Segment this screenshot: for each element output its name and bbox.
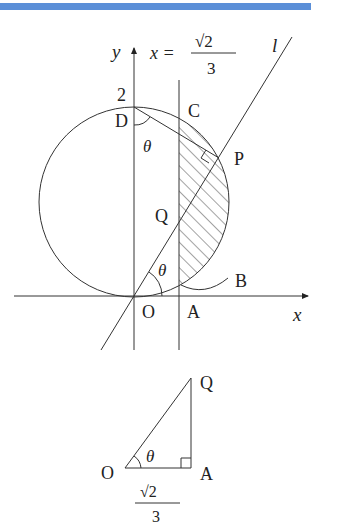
- angle-theta-O: θ: [158, 261, 166, 280]
- triangle-OAQ: [125, 378, 191, 468]
- angle-theta-D: θ: [143, 137, 151, 156]
- y-intercept-label: 2: [117, 85, 126, 105]
- point-Q-label: Q: [155, 206, 168, 226]
- point-B-label: B: [235, 271, 247, 291]
- x-axis-label: x: [292, 304, 302, 325]
- base-numerator: √2: [140, 483, 157, 500]
- equation-numerator: √2: [195, 32, 213, 51]
- point-C-label: C: [188, 101, 200, 121]
- point-P-label: P: [234, 149, 244, 169]
- shaded-region: [179, 100, 239, 300]
- point-O-label: O: [142, 302, 155, 322]
- equation-lhs: x =: [149, 43, 175, 63]
- point-D-label: D: [115, 111, 128, 131]
- y-axis-label: y: [110, 41, 121, 62]
- point-A-label: A: [187, 302, 200, 322]
- equation-denominator: 3: [207, 59, 216, 78]
- triangle-A-label: A: [200, 464, 213, 484]
- angle-arc-D: [134, 117, 150, 125]
- triangle-O-label: O: [101, 463, 114, 483]
- geometry-diagram: y x x = √2 3 l 2 D C P Q O A B θ θ O A Q…: [0, 0, 337, 528]
- triangle-theta: θ: [146, 447, 154, 466]
- line-l-label: l: [272, 35, 277, 56]
- triangle-Q-label: Q: [200, 373, 213, 393]
- base-denominator: 3: [152, 508, 160, 525]
